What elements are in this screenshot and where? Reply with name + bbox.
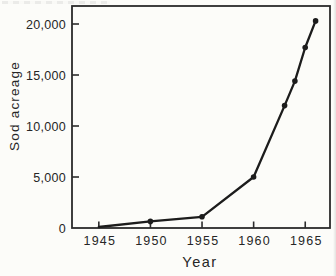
x-tick-label: 1955 (187, 234, 220, 248)
y-tick-label: 15,000 (26, 69, 66, 83)
y-tick-label: 20,000 (26, 18, 66, 32)
data-point (302, 45, 308, 51)
y-tick-label: 5,000 (33, 171, 66, 185)
y-axis: 05,00010,00015,00020,000 (26, 18, 79, 236)
sod-acreage-line-chart: 05,00010,00015,00020,0001945195019551960… (0, 0, 336, 276)
plot-frame (72, 6, 330, 228)
scanned-figure-page: 05,00010,00015,00020,0001945195019551960… (0, 0, 336, 276)
x-tick-label: 1950 (135, 234, 168, 248)
x-axis-title: Year (160, 254, 240, 270)
data-point (292, 78, 298, 84)
y-tick-label: 10,000 (26, 120, 66, 134)
x-tick-label: 1945 (84, 234, 117, 248)
data-point (313, 18, 319, 24)
data-point (148, 219, 154, 225)
x-tick-label: 1960 (238, 234, 271, 248)
data-line (99, 21, 316, 227)
y-axis-title: Sod acreage (7, 61, 22, 151)
data-point (251, 174, 257, 180)
x-tick-label: 1965 (290, 234, 323, 248)
data-point (282, 103, 288, 109)
y-tick-label: 0 (59, 222, 66, 236)
data-point (199, 214, 205, 220)
